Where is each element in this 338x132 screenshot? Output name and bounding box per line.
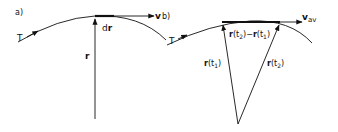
panel-a: a) T r dr v bbox=[15, 8, 166, 119]
panel-a-label: a) bbox=[15, 8, 23, 17]
average-velocity-label: vav bbox=[302, 12, 316, 24]
r-t1-label: r(t1) bbox=[204, 59, 221, 69]
position-vector-label: r bbox=[85, 51, 90, 61]
trajectory-direction-arrow-a bbox=[27, 31, 38, 37]
panel-b-label: b) bbox=[162, 12, 170, 21]
kinematics-diagram: a) T r dr v b) T vav r(t2)−r(t1) r(t bbox=[0, 0, 338, 132]
curve-label-T-a: T bbox=[16, 33, 23, 43]
displacement-label: dr bbox=[102, 23, 113, 33]
r-t2-label: r(t2) bbox=[267, 59, 284, 69]
panel-b: b) T vav r(t2)−r(t1) r(t1) r(t2) bbox=[162, 12, 316, 124]
trajectory-curve-a bbox=[18, 16, 166, 42]
velocity-label: v bbox=[155, 11, 161, 21]
position-vector-r-t2 bbox=[238, 25, 279, 124]
position-vector-r-t1 bbox=[223, 25, 238, 124]
difference-label: r(t2)−r(t1) bbox=[229, 30, 270, 40]
curve-label-T-b: T bbox=[168, 36, 175, 46]
